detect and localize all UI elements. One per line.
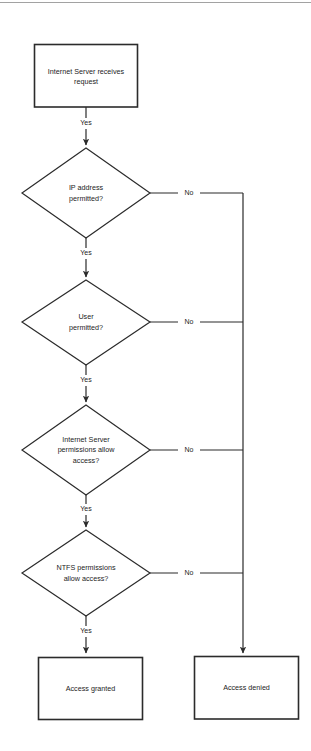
edge-ip-no: No [150, 188, 243, 199]
edge-user-no: No [150, 317, 243, 328]
edge-server-no-label: No [185, 446, 194, 453]
node-decision-server-perms: Internet Server permissions allow access… [22, 405, 150, 495]
edge-ip-no-label: No [185, 189, 194, 196]
edge-ip-to-user: Yes [74, 238, 98, 277]
flowchart-svg: Internet Server receives request Yes IP … [0, 0, 311, 751]
decision-user-label-line1: User [78, 312, 94, 321]
decision-ip-label-line1: IP address [69, 183, 104, 192]
edge-ntfs-to-granted: Yes [74, 616, 98, 653]
edge-user-no-label: No [185, 318, 194, 325]
node-decision-ip: IP address permitted? [22, 148, 150, 238]
node-granted: Access granted [39, 658, 143, 720]
decision-ntfs-label-line2: allow access? [64, 574, 109, 583]
decision-user-label-line2: permitted? [69, 323, 103, 332]
edge-start-to-ip-label: Yes [80, 119, 92, 126]
edge-server-to-ntfs-label: Yes [80, 505, 92, 512]
edge-server-no: No [150, 445, 243, 456]
flowchart-canvas: Internet Server receives request Yes IP … [0, 0, 311, 751]
node-start: Internet Server receives request [35, 45, 138, 108]
edge-ntfs-no: No [150, 568, 243, 579]
start-box-label-line2: request [74, 77, 98, 86]
edge-ip-to-user-label: Yes [80, 249, 92, 256]
decision-server-perms-label-line2: permissions allow [58, 445, 116, 454]
decision-ip-label-line2: permitted? [69, 194, 103, 203]
decision-server-perms-label-line1: Internet Server [62, 435, 110, 444]
edge-user-to-server-label: Yes [80, 376, 92, 383]
granted-box-label: Access granted [66, 684, 116, 693]
edge-ntfs-no-label: No [185, 569, 194, 576]
start-box-label-line1: Internet Server receives [48, 67, 125, 76]
denied-box-label: Access denied [223, 683, 270, 692]
edge-ntfs-to-granted-label: Yes [80, 627, 92, 634]
edge-start-to-ip: Yes [74, 107, 98, 145]
edge-server-to-ntfs: Yes [74, 495, 98, 527]
edge-user-to-server: Yes [74, 365, 98, 402]
node-decision-user: User permitted? [22, 280, 150, 365]
decision-ntfs-label-line1: NTFS permissions [56, 563, 116, 572]
decision-server-perms-label-line3: access? [73, 456, 99, 465]
node-decision-ntfs: NTFS permissions allow access? [22, 530, 150, 616]
node-denied: Access denied [195, 657, 299, 720]
